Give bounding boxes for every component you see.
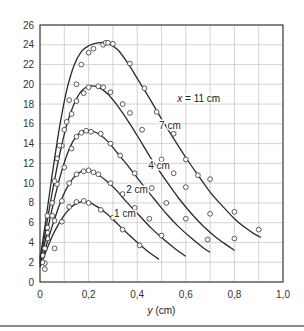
series-label: 2 cm — [126, 184, 148, 195]
y-tick-label: 24 — [23, 39, 35, 50]
data-point-marker — [232, 236, 237, 241]
series-label: 7 cm — [159, 120, 181, 131]
data-point-marker — [86, 85, 91, 90]
data-point-marker — [101, 85, 106, 90]
data-point-marker — [67, 181, 72, 186]
x-tick-label: 0 — [37, 289, 43, 300]
data-point-marker — [118, 153, 123, 158]
data-point-marker — [154, 110, 159, 115]
x-tick-label: 0,2 — [82, 289, 96, 300]
data-point-marker — [91, 170, 96, 175]
data-point-marker — [120, 192, 125, 197]
y-tick-label: 14 — [23, 138, 35, 149]
data-point-marker — [69, 146, 74, 151]
data-point-marker — [89, 129, 94, 134]
y-tick-label: 10 — [23, 178, 35, 189]
data-point-marker — [62, 127, 67, 132]
data-point-marker — [84, 128, 89, 133]
data-point-marker — [147, 216, 152, 221]
data-point-marker — [62, 165, 67, 170]
y-tick-label: 22 — [23, 59, 35, 70]
data-point-marker — [98, 207, 103, 212]
x-tick-label: 0,4 — [130, 289, 144, 300]
data-point-marker — [140, 127, 145, 132]
data-point-marker — [232, 209, 237, 214]
data-point-marker — [128, 61, 133, 66]
data-point-marker — [183, 185, 188, 190]
data-series — [40, 40, 261, 271]
y-tick-label: 26 — [23, 20, 35, 31]
data-point-marker — [183, 216, 188, 221]
series-label: 1 cm — [114, 208, 136, 219]
data-point-marker — [74, 82, 79, 87]
data-point-marker — [42, 246, 47, 251]
y-tick-label: 0 — [28, 277, 34, 288]
series-label: x = 11 cm — [176, 93, 220, 104]
y-tick-label: 6 — [28, 217, 34, 228]
data-point-marker — [67, 98, 72, 103]
data-point-marker — [79, 62, 84, 67]
data-point-marker — [98, 131, 103, 136]
data-point-marker — [108, 141, 113, 146]
data-point-marker — [96, 84, 101, 89]
data-point-marker — [81, 91, 86, 96]
data-point-marker — [137, 243, 142, 248]
data-point-marker — [52, 179, 57, 184]
data-point-marker — [159, 233, 164, 238]
data-point-marker — [205, 237, 210, 242]
data-point-marker — [164, 201, 169, 206]
data-point-marker — [59, 219, 64, 224]
data-point-marker — [74, 172, 79, 177]
data-point-marker — [79, 130, 84, 135]
y-tick-label: 2 — [28, 257, 34, 268]
y-tick-label: 12 — [23, 158, 35, 169]
data-point-marker — [67, 204, 72, 209]
data-point-marker — [149, 186, 154, 191]
data-point-marker — [74, 200, 79, 205]
y-tick-label: 20 — [23, 79, 35, 90]
data-point-marker — [208, 211, 213, 216]
chart: 0246810121416182022242600,20,40,60,81,0 … — [0, 0, 304, 331]
data-point-marker — [45, 213, 50, 218]
data-point-marker — [108, 181, 113, 186]
data-point-marker — [74, 134, 79, 139]
data-point-marker — [171, 171, 176, 176]
data-point-marker — [57, 143, 62, 148]
data-point-marker — [91, 46, 96, 51]
data-point-marker — [256, 227, 261, 232]
data-point-marker — [81, 169, 86, 174]
data-point-marker — [52, 246, 57, 251]
x-tick-label: 0,8 — [227, 289, 241, 300]
data-point-marker — [59, 199, 64, 204]
data-point-marker — [171, 131, 176, 136]
data-point-marker — [86, 168, 91, 173]
data-point-marker — [50, 213, 55, 218]
series-4-cm — [40, 128, 210, 264]
x-tick-label: 1,0 — [276, 289, 290, 300]
data-point-marker — [96, 172, 101, 177]
data-point-marker — [42, 267, 47, 272]
data-point-marker — [86, 201, 91, 206]
data-point-marker — [120, 102, 125, 107]
data-point-marker — [120, 227, 125, 232]
data-point-marker — [74, 99, 79, 104]
data-point-marker — [132, 171, 137, 176]
x-axis-label-unit: (cm) — [153, 305, 176, 316]
series-7-cm — [40, 84, 237, 262]
y-tick-label: 16 — [23, 118, 35, 129]
y-tick-label: 18 — [23, 99, 35, 110]
data-point-marker — [106, 40, 111, 45]
data-point-marker — [142, 86, 147, 91]
x-axis-label: y (cm) — [147, 305, 176, 316]
data-point-marker — [208, 177, 213, 182]
data-point-marker — [64, 119, 69, 124]
data-point-marker — [52, 218, 57, 223]
data-point-marker — [196, 173, 201, 178]
data-point-marker — [128, 111, 133, 116]
data-point-marker — [111, 41, 116, 46]
y-tick-label: 4 — [28, 237, 34, 248]
x-tick-label: 0,6 — [179, 289, 193, 300]
data-point-marker — [50, 201, 55, 206]
bottom-rule — [0, 325, 304, 327]
data-point-marker — [81, 199, 86, 204]
